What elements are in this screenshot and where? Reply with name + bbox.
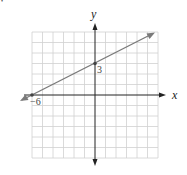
y-axis-arrow-down bbox=[93, 159, 98, 166]
y-axis-label: y bbox=[91, 8, 96, 20]
x-axis-arrow bbox=[159, 93, 166, 98]
x-axis-label: x bbox=[172, 89, 177, 101]
axes bbox=[24, 27, 162, 162]
y-axis-arrow-up bbox=[93, 23, 98, 30]
y-intercept-label: 3 bbox=[97, 65, 102, 75]
plotted-line bbox=[22, 35, 150, 100]
coordinate-plane bbox=[0, 0, 187, 175]
x-intercept-label: −6 bbox=[30, 97, 41, 107]
